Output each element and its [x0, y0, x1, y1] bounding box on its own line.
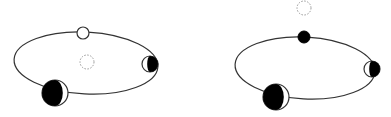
central-body-dashed-circle [80, 55, 94, 69]
body-right [364, 61, 380, 77]
body-top [77, 27, 89, 39]
body-bottom-left [42, 80, 68, 106]
body-bottom-left [263, 84, 289, 110]
right-orbit-panel [233, 1, 380, 110]
central-body-dashed-circle [297, 1, 311, 15]
orbit-ellipse [233, 33, 376, 102]
body-disc [77, 27, 89, 39]
body-top [298, 31, 310, 43]
body-right [142, 56, 158, 72]
left-orbit-panel [12, 27, 159, 106]
body-disc [298, 31, 310, 43]
orbit-diagram [0, 0, 391, 117]
